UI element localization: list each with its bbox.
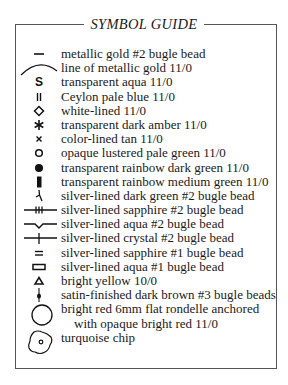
- item-label: silver-lined crystal #2 bugle bead: [61, 231, 234, 245]
- list-item: transparent rainbow dark green 11/0: [0, 161, 288, 175]
- squiggle-stroke-icon: [0, 189, 60, 203]
- list-item: transparent rainbow medium green 11/0: [0, 175, 288, 189]
- arc-line-icon: [0, 61, 60, 75]
- list-item: Ceylon pale blue 11/0: [0, 90, 288, 104]
- list-item: silver-lined crystal #2 bugle bead: [0, 231, 288, 245]
- list-item: silver-lined aqua #1 bugle bead: [0, 260, 288, 274]
- filled-rectangle-icon: [0, 175, 60, 189]
- list-item: turquoise chip: [0, 331, 288, 345]
- list-item: silver-lined sapphire #2 bugle bead: [0, 203, 288, 217]
- triple-tick-line-icon: [0, 203, 60, 217]
- list-item: silver-lined sapphire #1 bugle bead: [0, 246, 288, 260]
- item-label: Ceylon pale blue 11/0: [61, 90, 175, 104]
- list-item: metallic gold #2 bugle bead: [0, 47, 288, 61]
- letter-s-icon: S: [0, 75, 60, 89]
- item-label: silver-lined aqua #2 bugle bead: [61, 217, 224, 231]
- item-label: transparent rainbow dark green 11/0: [61, 161, 249, 175]
- filled-circle-icon: [0, 161, 60, 175]
- single-tick-line-icon: [0, 231, 60, 245]
- item-label: silver-lined dark green #2 bugle bead: [61, 189, 255, 203]
- list-item: S transparent aqua 11/0: [0, 75, 288, 89]
- v-notch-line-icon: [0, 217, 60, 231]
- item-label: turquoise chip: [61, 331, 135, 345]
- item-label: with opaque bright red 11/0: [74, 317, 218, 331]
- symbol-list: metallic gold #2 bugle bead line of meta…: [0, 47, 288, 345]
- large-circle-icon: [0, 302, 60, 316]
- item-label: white-lined 11/0: [61, 104, 146, 118]
- chip-outline-icon: [0, 331, 60, 345]
- item-label: opaque lustered pale green 11/0: [61, 146, 226, 160]
- dot-stem-icon: [0, 288, 60, 302]
- list-item: bright red 6mm flat rondelle anchored: [0, 302, 288, 316]
- list-item: opaque lustered pale green 11/0: [0, 146, 288, 160]
- double-bar-icon: [0, 90, 60, 104]
- item-label: silver-lined sapphire #1 bugle bead: [61, 246, 243, 260]
- list-item: silver-lined aqua #2 bugle bead: [0, 217, 288, 231]
- item-label: silver-lined aqua #1 bugle bead: [61, 260, 224, 274]
- list-item: line of metallic gold 11/0: [0, 61, 288, 75]
- page-title: SYMBOL GUIDE: [84, 16, 205, 32]
- circle-outline-icon: [0, 146, 60, 160]
- item-label: transparent dark amber 11/0: [61, 118, 207, 132]
- diamond-outline-icon: [0, 104, 60, 118]
- list-item: silver-lined dark green #2 bugle bead: [0, 189, 288, 203]
- list-item: transparent dark amber 11/0: [0, 118, 288, 132]
- short-dash-icon: [0, 47, 60, 61]
- item-label: metallic gold #2 bugle bead: [61, 47, 205, 61]
- asterisk-icon: [0, 118, 60, 132]
- rectangle-outline-icon: [0, 260, 60, 274]
- equals-icon: [0, 246, 60, 260]
- item-label: color-lined tan 11/0: [61, 132, 163, 146]
- item-label: transparent aqua 11/0: [61, 75, 172, 89]
- item-label: bright red 6mm flat rondelle anchored: [61, 302, 259, 316]
- title-wrap: SYMBOL GUIDE: [0, 15, 288, 33]
- triangle-outline-icon: [0, 274, 60, 288]
- item-label: transparent rainbow medium green 11/0: [61, 175, 268, 189]
- item-label: bright yellow 10/0: [61, 274, 157, 288]
- item-label: silver-lined sapphire #2 bugle bead: [61, 203, 243, 217]
- list-item: with opaque bright red 11/0: [0, 317, 288, 331]
- item-label: line of metallic gold 11/0: [61, 61, 192, 75]
- list-item: color-lined tan 11/0: [0, 132, 288, 146]
- list-item: bright yellow 10/0: [0, 274, 288, 288]
- list-item: white-lined 11/0: [0, 104, 288, 118]
- svg-text:S: S: [35, 75, 43, 89]
- item-label: satin-finished dark brown #3 bugle beads: [61, 288, 276, 302]
- x-cross-icon: [0, 132, 60, 146]
- list-item: satin-finished dark brown #3 bugle beads: [0, 288, 288, 302]
